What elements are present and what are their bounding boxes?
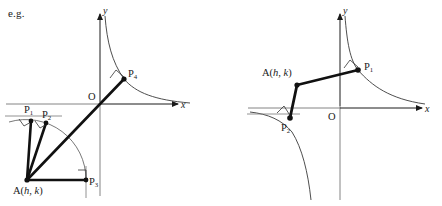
right-point-a xyxy=(294,82,299,87)
figure-canvas xyxy=(0,0,442,206)
left-label-a: A(h, k) xyxy=(13,186,43,197)
left-segment-a-p4 xyxy=(27,79,124,180)
left-label-p1-sub: 1 xyxy=(30,109,33,116)
left-hyperbola-curve xyxy=(105,16,190,103)
right-label-a: A(h, k) xyxy=(262,68,292,79)
left-y-axis-label: y xyxy=(103,6,107,16)
right-label-p2-sub: 2 xyxy=(287,127,290,134)
left-label-p1-base: P xyxy=(24,104,30,115)
left-arc xyxy=(9,120,86,180)
right-hyperbola-branch-1 xyxy=(345,16,425,104)
left-point-p2 xyxy=(44,121,49,126)
left-label-p3-sub: 3 xyxy=(95,181,98,188)
right-label-p1-sub: 1 xyxy=(370,66,373,73)
right-label-p2-base: P xyxy=(281,122,287,133)
left-x-axis-label: x xyxy=(181,100,185,110)
right-label-p1: P1 xyxy=(364,62,373,73)
left-label-p1: P1 xyxy=(24,105,33,116)
left-label-p3: P3 xyxy=(89,177,98,188)
left-label-p3-base: P xyxy=(89,176,95,187)
caption-eg: e.g. xyxy=(8,8,25,19)
figure-root: e.g. y x O P1 P2 P3 P4 A(h, k) y x O P1 … xyxy=(0,0,442,206)
right-diagram xyxy=(247,14,425,200)
right-label-p2: P2 xyxy=(281,123,290,134)
left-label-p2-base: P xyxy=(42,109,48,120)
right-segment-a-p1 xyxy=(297,70,358,85)
left-point-p1 xyxy=(29,119,34,124)
left-point-a xyxy=(24,177,29,182)
right-x-axis-label: x xyxy=(425,104,429,114)
left-right-angle-p4 xyxy=(110,70,124,78)
left-point-p3 xyxy=(84,178,89,183)
left-label-p2: P2 xyxy=(42,110,51,121)
left-label-p4-sub: 4 xyxy=(134,73,137,80)
right-segment-p2-a xyxy=(290,85,297,118)
left-label-p4: P4 xyxy=(128,69,137,80)
left-origin-label: O xyxy=(88,92,96,103)
left-label-p2-sub: 2 xyxy=(48,114,51,121)
right-label-p1-base: P xyxy=(364,61,370,72)
left-point-p4 xyxy=(121,76,126,81)
right-point-p1 xyxy=(355,67,361,73)
left-label-p4-base: P xyxy=(128,68,134,79)
right-point-p2 xyxy=(287,115,293,121)
left-right-angle-p3 xyxy=(78,170,86,179)
right-y-axis-label: y xyxy=(343,6,347,16)
right-origin-label: O xyxy=(328,112,336,123)
